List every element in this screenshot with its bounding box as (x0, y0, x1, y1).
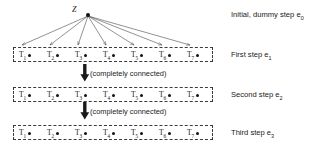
node-label: T5 (131, 50, 138, 61)
node-t6-step2: T6 (159, 89, 171, 102)
node-t1-step1: T1 (19, 49, 31, 62)
node-dot (140, 94, 143, 97)
node-t3-step2: T3 (75, 89, 87, 102)
connector-note: (completely connected) (90, 107, 166, 116)
caption-subscript: 2 (280, 95, 283, 101)
node-label: T2 (47, 90, 54, 101)
node-label: T4 (103, 50, 110, 61)
node-dot (196, 54, 199, 57)
node-dot (56, 94, 59, 97)
node-label: T3 (75, 90, 82, 101)
node-t3-step1: T3 (75, 49, 87, 62)
node-subscript: 2 (52, 133, 55, 139)
node-t5-step3: T5 (131, 127, 143, 140)
node-dot (28, 54, 31, 57)
edge-z-to-t2 (50, 16, 88, 45)
caption-text: Initial, dummy step e (231, 10, 301, 19)
node-subscript: 6 (164, 55, 167, 61)
node-t4-step1: T4 (103, 49, 115, 62)
node-label: T4 (103, 90, 110, 101)
node-label: T1 (19, 50, 26, 61)
node-t4-step2: T4 (103, 89, 115, 102)
node-subscript: 2 (52, 95, 55, 101)
node-dot (84, 132, 87, 135)
node-label: T3 (75, 50, 82, 61)
node-dot (56, 54, 59, 57)
node-subscript: 7 (192, 55, 195, 61)
node-dot (56, 132, 59, 135)
node-dot (168, 94, 171, 97)
edge-z-to-t3 (78, 16, 88, 45)
node-t3-step3: T3 (75, 127, 87, 140)
node-t2-step1: T2 (47, 49, 59, 62)
thick-down-arrow-icon (80, 102, 90, 120)
edge-z-to-t5 (88, 16, 134, 45)
node-label: T7 (187, 50, 194, 61)
node-label: T7 (187, 128, 194, 139)
node-label: T5 (131, 90, 138, 101)
node-subscript: 3 (80, 55, 83, 61)
node-subscript: 1 (24, 55, 27, 61)
node-subscript: 5 (136, 95, 139, 101)
node-t7-step1: T7 (187, 49, 199, 62)
node-t7-step2: T7 (187, 89, 199, 102)
second-step-row: T1 T2 T3 T4 T5 T6 T7 (13, 87, 213, 102)
caption-third-step: Third step e3 (231, 128, 274, 141)
thick-down-arrow-icon (80, 64, 90, 82)
node-t4-step3: T4 (103, 127, 115, 140)
node-subscript: 6 (164, 133, 167, 139)
caption-text: First step e (231, 50, 269, 59)
third-step-row: T1 T2 T3 T4 T5 T6 T7 (13, 125, 213, 140)
node-subscript: 4 (108, 133, 111, 139)
node-label: T1 (19, 128, 26, 139)
node-label: T6 (159, 128, 166, 139)
node-t6-step3: T6 (159, 127, 171, 140)
node-subscript: 3 (80, 133, 83, 139)
node-subscript: 7 (192, 95, 195, 101)
node-label: T1 (19, 90, 26, 101)
node-t5-step2: T5 (131, 89, 143, 102)
node-subscript: 1 (24, 133, 27, 139)
caption-first-step: First step e1 (231, 50, 272, 63)
node-dot (84, 94, 87, 97)
node-label: T2 (47, 50, 54, 61)
edge-z-to-t6 (88, 16, 162, 45)
node-t1-step2: T1 (19, 89, 31, 102)
node-subscript: 2 (52, 55, 55, 61)
node-subscript: 6 (164, 95, 167, 101)
node-dot (28, 132, 31, 135)
node-label: T4 (103, 128, 110, 139)
node-t7-step3: T7 (187, 127, 199, 140)
caption-initial-step: Initial, dummy step e0 (231, 10, 304, 23)
node-label: T7 (187, 90, 194, 101)
node-subscript: 1 (24, 95, 27, 101)
caption-subscript: 0 (301, 15, 304, 21)
node-dot (112, 54, 115, 57)
node-subscript: 7 (192, 133, 195, 139)
node-dot (196, 132, 199, 135)
node-label: T6 (159, 90, 166, 101)
caption-text: Third step e (231, 128, 271, 137)
node-t2-step3: T2 (47, 127, 59, 140)
node-dot (196, 94, 199, 97)
root-node-dot (86, 13, 90, 17)
node-dot (84, 54, 87, 57)
node-dot (168, 132, 171, 135)
node-label: T6 (159, 50, 166, 61)
node-subscript: 4 (108, 55, 111, 61)
edge-z-to-t1 (22, 16, 88, 45)
node-dot (112, 94, 115, 97)
caption-text: Second step e (231, 90, 280, 99)
node-subscript: 3 (80, 95, 83, 101)
root-node-label: Z (72, 6, 76, 14)
node-dot (112, 132, 115, 135)
connector-note: (completely connected) (90, 69, 166, 78)
diagram-canvas: Z T1 T2 T3 T4 T5 T6 T7 (0, 0, 327, 155)
edge-z-to-t7 (88, 16, 190, 45)
caption-subscript: 3 (271, 133, 274, 139)
caption-second-step: Second step e2 (231, 90, 283, 103)
node-dot (168, 54, 171, 57)
node-t2-step2: T2 (47, 89, 59, 102)
node-t5-step1: T5 (131, 49, 143, 62)
node-subscript: 5 (136, 55, 139, 61)
